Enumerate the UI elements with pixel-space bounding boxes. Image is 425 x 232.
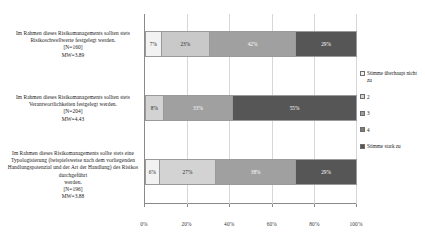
legend-label: Stimme überhaupt nicht zu <box>367 70 423 84</box>
bar-row[interactable]: 8% 33% 55% <box>145 95 357 121</box>
bar-segment: 38% <box>215 160 295 184</box>
bar-segment: 33% <box>163 96 232 120</box>
tick-100 <box>356 204 357 207</box>
legend-label: Stimme stark zu <box>367 143 423 150</box>
xtick-label: 60% <box>267 221 277 227</box>
tick-40 <box>229 204 230 207</box>
tick-60 <box>272 204 273 207</box>
category-mw-label: MW=3.88 <box>4 193 142 200</box>
bar-segment: 7% <box>146 32 161 56</box>
category-text-line: Art der Handlung) des Risikos durchgefüh… <box>59 164 139 177</box>
category-label-3: Im Rahmen dieses Risikomanagements sollt… <box>4 150 142 200</box>
legend-label: 2 <box>367 94 423 101</box>
bar-segment: 29% <box>295 32 356 56</box>
legend-item[interactable]: 4 <box>360 127 423 134</box>
tick-0 <box>144 204 145 207</box>
legend-swatch-icon <box>360 71 365 76</box>
legend-swatch-icon <box>360 111 365 116</box>
bar-row[interactable]: 7% 23% 42% 29% <box>145 31 357 57</box>
bar-segment: 23% <box>161 32 209 56</box>
legend-swatch-icon <box>360 144 365 149</box>
category-mw-label: MW=4.43 <box>4 116 142 123</box>
legend-label: 3 <box>367 110 423 117</box>
category-n-label: [N=204] <box>4 108 142 115</box>
category-n-label: [N=160] <box>4 44 142 51</box>
legend-swatch-icon <box>360 127 365 132</box>
stacked-bar-chart: 7% 23% 42% 29% 8% 33% 55% 6% 27% 38% 29%… <box>0 0 425 232</box>
legend-item[interactable]: Stimme stark zu <box>360 143 423 150</box>
legend-item[interactable]: 3 <box>360 110 423 117</box>
bar-segment: 42% <box>209 32 295 56</box>
tick-20 <box>187 204 188 207</box>
bar-segment: 27% <box>159 160 216 184</box>
category-text-line: Im Rahmen dieses Risikomanagements sollt… <box>16 94 119 100</box>
legend-item[interactable]: Stimme überhaupt nicht zu <box>360 70 423 84</box>
xtick-label: 100% <box>350 221 363 227</box>
tick-80 <box>314 204 315 207</box>
category-label-2: Im Rahmen dieses Risikomanagements sollt… <box>4 94 142 123</box>
xtick-label: 40% <box>224 221 234 227</box>
xtick-label: 20% <box>182 221 192 227</box>
legend-item[interactable]: 2 <box>360 94 423 101</box>
category-label-1: Im Rahmen dieses Risikomanagements sollt… <box>4 30 142 59</box>
legend-label: 4 <box>367 127 423 134</box>
plot-area: 7% 23% 42% 29% 8% 33% 55% 6% 27% 38% 29%… <box>144 14 357 204</box>
category-n-label: [N=196] <box>4 186 142 193</box>
category-text-line: Im Rahmen dieses Risikomanagements sollt… <box>16 30 119 36</box>
legend-swatch-icon <box>360 94 365 99</box>
legend: Stimme überhaupt nicht zu 2 3 4 Stimme s… <box>360 70 423 160</box>
category-mw-label: MW=3.89 <box>4 52 142 59</box>
xtick-label: 80% <box>309 221 319 227</box>
bar-segment: 6% <box>146 160 159 184</box>
bar-row[interactable]: 6% 27% 38% 29% <box>145 159 357 185</box>
bar-segment: 8% <box>146 96 163 120</box>
bar-segment: 29% <box>295 160 356 184</box>
x-axis-line <box>144 203 357 204</box>
category-text-line: Im Rahmen dieses Risikomanagements sollt… <box>12 150 112 156</box>
category-text-line: werden. <box>4 179 142 186</box>
xtick-label: 0% <box>140 221 147 227</box>
bar-segment: 55% <box>232 96 356 120</box>
